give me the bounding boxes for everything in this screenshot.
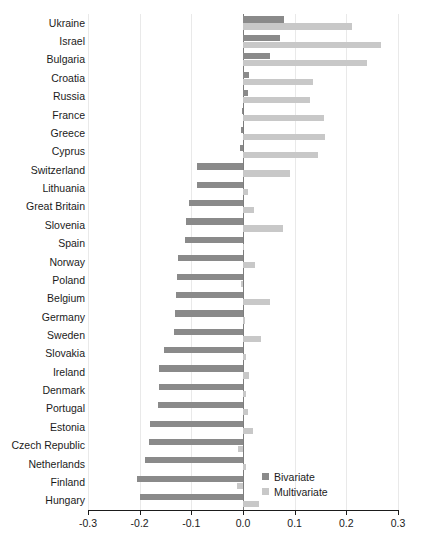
bar-multivariate [241, 281, 243, 287]
bar-bivariate [197, 163, 244, 169]
category-label: Croatia [3, 73, 85, 84]
x-axis-tick-label: 0.1 [287, 517, 302, 529]
category-label: Germany [3, 312, 85, 323]
category-axis-labels: UkraineIsraelBulgariaCroatiaRussiaFrance… [0, 14, 85, 510]
bar-row [88, 290, 398, 308]
bar-row [88, 179, 398, 197]
bar-row [88, 32, 398, 50]
plot-area [88, 14, 398, 510]
category-label: Great Britain [3, 201, 85, 212]
bar-row [88, 216, 398, 234]
bar-bivariate [197, 182, 243, 188]
bar-row [88, 345, 398, 363]
category-label: Belgium [3, 293, 85, 304]
legend-item: Multivariate [262, 485, 328, 498]
bar-bivariate [243, 90, 248, 96]
bar-row [88, 87, 398, 105]
bar-row [88, 418, 398, 436]
x-axis-tick [140, 510, 141, 515]
bar-row [88, 69, 398, 87]
gridline [398, 14, 399, 510]
bar-multivariate [243, 207, 254, 213]
category-label: Sweden [3, 330, 85, 341]
bar-multivariate [243, 299, 270, 305]
legend-item: Bivariate [262, 470, 328, 483]
category-label: Ireland [3, 367, 85, 378]
bar-bivariate [186, 218, 243, 224]
category-label: Lithuania [3, 183, 85, 194]
category-label: Ukraine [3, 18, 85, 29]
bar-row [88, 400, 398, 418]
bar-multivariate [243, 391, 246, 397]
bar-multivariate [243, 464, 246, 470]
x-axis-tick [243, 510, 244, 515]
category-label: Switzerland [3, 165, 85, 176]
legend-label: Bivariate [274, 471, 315, 483]
x-axis-tick-label: -0.3 [79, 517, 97, 529]
bar-bivariate [189, 200, 243, 206]
bar-bivariate [149, 439, 243, 445]
bar-bivariate [242, 108, 243, 114]
bar-multivariate [243, 152, 318, 158]
x-axis-tick [346, 510, 347, 515]
bar-row [88, 381, 398, 399]
bar-row [88, 326, 398, 344]
bar-multivariate [243, 244, 244, 250]
bar-bivariate [164, 347, 243, 353]
legend-swatch-icon [262, 488, 269, 495]
x-axis-tick [191, 510, 192, 515]
bar-bivariate [159, 365, 243, 371]
bar-multivariate [243, 97, 310, 103]
category-label: Hungary [3, 495, 85, 506]
bar-bivariate [158, 402, 243, 408]
legend-swatch-icon [262, 473, 269, 480]
category-label: France [3, 110, 85, 121]
category-label: Denmark [3, 385, 85, 396]
bar-multivariate [243, 225, 283, 231]
category-label: Norway [3, 257, 85, 268]
bar-row [88, 234, 398, 252]
bar-bivariate [243, 72, 249, 78]
bar-bivariate [177, 274, 243, 280]
category-label: Russia [3, 91, 85, 102]
bar-row [88, 198, 398, 216]
bar-row [88, 143, 398, 161]
category-label: Poland [3, 275, 85, 286]
bar-bivariate [178, 255, 243, 261]
category-label: Spain [3, 238, 85, 249]
bar-multivariate [243, 79, 313, 85]
category-label: Slovenia [3, 220, 85, 231]
bar-row [88, 363, 398, 381]
category-label: Greece [3, 128, 85, 139]
bar-multivariate [243, 354, 246, 360]
bar-multivariate [243, 409, 248, 415]
x-axis-tick-label: -0.2 [131, 517, 149, 529]
bar-multivariate [243, 170, 290, 176]
bar-bivariate [159, 384, 243, 390]
bar-row [88, 253, 398, 271]
category-label: Bulgaria [3, 54, 85, 65]
category-label: Cyprus [3, 146, 85, 157]
bar-row [88, 437, 398, 455]
category-label: Netherlands [3, 459, 85, 470]
bar-multivariate [243, 262, 255, 268]
bar-bivariate [150, 421, 243, 427]
bar-row [88, 124, 398, 142]
x-axis-tick-label: -0.1 [182, 517, 200, 529]
bar-multivariate [243, 134, 325, 140]
bar-bivariate [243, 35, 280, 41]
category-label: Slovakia [3, 348, 85, 359]
bar-multivariate [243, 317, 245, 323]
bar-bivariate [174, 329, 243, 335]
bar-bivariate [176, 292, 243, 298]
bar-bivariate [240, 145, 243, 151]
x-axis-tick-label: 0.3 [391, 517, 406, 529]
x-axis-tick [398, 510, 399, 515]
bar-multivariate [243, 501, 259, 507]
bar-bivariate [140, 494, 243, 500]
x-axis-tick [295, 510, 296, 515]
bar-bivariate [185, 237, 243, 243]
bar-multivariate [243, 23, 352, 29]
x-axis-tick-label: 0.2 [339, 517, 354, 529]
bar-bivariate [243, 53, 270, 59]
